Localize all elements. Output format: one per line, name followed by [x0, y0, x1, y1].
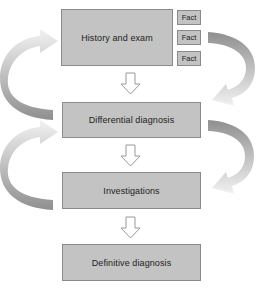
step-history-and-exam: History and exam: [61, 9, 173, 66]
fact-box-3: Fact: [177, 51, 201, 66]
step-label: History and exam: [81, 33, 153, 43]
step-definitive-diagnosis: Definitive diagnosis: [62, 244, 201, 281]
step-differential-diagnosis: Differential diagnosis: [62, 102, 201, 138]
fact-label: Fact: [182, 33, 197, 42]
loop-arrow-right-2: [208, 120, 254, 194]
down-arrow-2: [121, 145, 140, 166]
step-label: Differential diagnosis: [89, 115, 175, 125]
down-arrow-1: [121, 73, 140, 94]
fact-label: Fact: [182, 54, 197, 63]
fact-label: Fact: [182, 13, 197, 22]
loop-arrow-left-2: [0, 120, 58, 210]
step-investigations: Investigations: [62, 172, 201, 209]
fact-box-2: Fact: [177, 30, 201, 45]
step-label: Investigations: [103, 186, 159, 196]
step-label: Definitive diagnosis: [92, 258, 172, 268]
loop-arrow-left-1: [0, 29, 58, 120]
fact-box-1: Fact: [177, 10, 201, 25]
loop-arrow-right-1: [208, 32, 255, 106]
down-arrow-3: [121, 217, 140, 238]
